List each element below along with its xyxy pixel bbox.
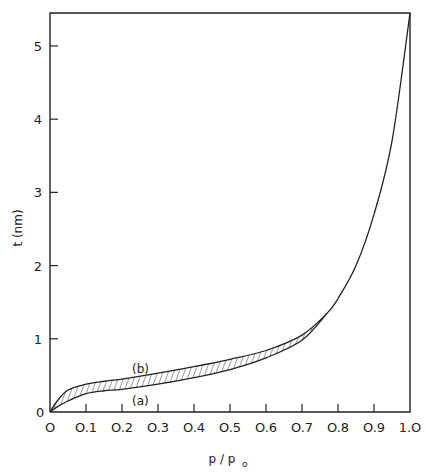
x-tick-label: O.8: [327, 420, 349, 435]
x-axis-ticks: OO.1O.2O.3O.4O.5O.6O.7O.8O.91.O: [45, 404, 421, 435]
y-tick-label: 5: [34, 39, 42, 54]
y-tick-label: 3: [34, 185, 42, 200]
x-tick-label: O.9: [363, 420, 385, 435]
x-tick-label: O.7: [291, 420, 313, 435]
x-axis-title-main: p / p: [209, 452, 236, 466]
x-axis-title: p / p o: [209, 452, 248, 469]
x-tick-label: O: [45, 420, 55, 435]
x-tick-label: O.2: [111, 420, 133, 435]
x-tick-label: 1.O: [399, 420, 422, 435]
x-tick-label: O.4: [183, 420, 205, 435]
curve-a-label: (a): [132, 394, 149, 408]
y-axis-ticks: 12345: [34, 39, 58, 347]
x-tick-label: O.1: [75, 420, 97, 435]
hatched-region: [50, 313, 327, 412]
isotherm-chart: OO.1O.2O.3O.4O.5O.6O.7O.8O.91.O 12345 (b…: [0, 0, 426, 474]
curve-b: [50, 13, 410, 412]
x-tick-label: O.3: [147, 420, 169, 435]
x-tick-label: O.5: [219, 420, 241, 435]
y-tick-label: 4: [34, 112, 42, 127]
curve-b-label: (b): [132, 362, 149, 376]
y-tick-label: 1: [34, 332, 42, 347]
x-tick-label: O.6: [255, 420, 277, 435]
plot-frame: [50, 13, 410, 412]
y-origin-label: 0: [36, 405, 44, 420]
x-axis-title-sub: o: [242, 459, 248, 469]
curves: [50, 13, 410, 412]
y-axis-title: t (nm): [11, 209, 25, 246]
y-tick-label: 2: [34, 259, 42, 274]
curve-a: [50, 313, 327, 412]
